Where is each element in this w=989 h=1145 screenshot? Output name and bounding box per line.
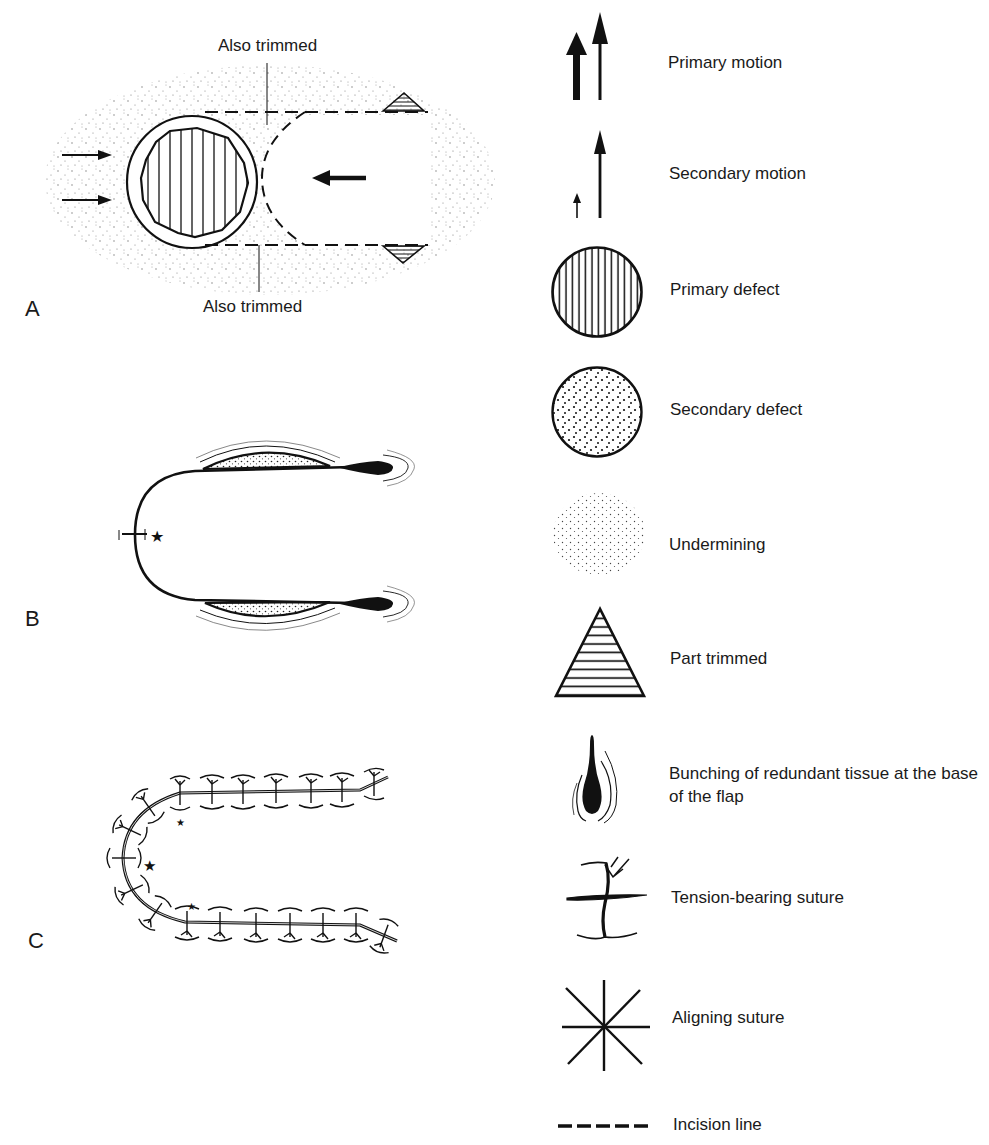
secondary-motion-arrows-icon xyxy=(560,125,620,220)
svg-text:★: ★ xyxy=(150,527,164,546)
legend-label-bunching: Bunching of redundant tissue at the base… xyxy=(669,762,979,808)
svg-text:★: ★ xyxy=(187,901,196,912)
legend-label-undermining: Undermining xyxy=(669,533,765,556)
legend-label-incision-line: Incision line xyxy=(673,1113,762,1136)
callout-also-trimmed-top: Also trimmed xyxy=(218,36,317,56)
legend-label-aligning-suture: Aligning suture xyxy=(672,1006,784,1029)
tension-suture-icon xyxy=(563,855,653,945)
legend-label-secondary-motion: Secondary motion xyxy=(669,162,806,185)
primary-motion-arrows-icon xyxy=(560,10,620,105)
legend-label-part-trimmed: Part trimmed xyxy=(670,647,767,670)
undermining-stipple-icon xyxy=(553,492,649,578)
legend-label-primary-defect: Primary defect xyxy=(670,278,780,301)
panel-letter-c: C xyxy=(28,928,44,954)
svg-text:★: ★ xyxy=(143,857,156,875)
legend-label-primary-motion: Primary motion xyxy=(668,51,782,74)
legend-label-tension-suture: Tension-bearing suture xyxy=(671,886,844,909)
panel-c-drawing: ★ ★ ★ xyxy=(0,750,460,980)
callout-also-trimmed-bottom: Also trimmed xyxy=(203,297,302,317)
svg-text:★: ★ xyxy=(176,817,185,828)
legend-label-secondary-defect: Secondary defect xyxy=(670,398,802,421)
secondary-defect-dotted-circle-icon xyxy=(550,365,646,461)
part-trimmed-triangle-icon xyxy=(553,606,653,702)
tissue-bunching-icon xyxy=(568,733,628,828)
aligning-suture-icon xyxy=(560,978,656,1074)
primary-defect-hatched-circle-icon xyxy=(550,245,646,341)
panel-letter-a: A xyxy=(25,296,40,322)
incision-line-icon xyxy=(556,1120,656,1132)
panel-letter-b: B xyxy=(25,606,40,632)
panel-b-drawing: ★ xyxy=(0,430,460,660)
